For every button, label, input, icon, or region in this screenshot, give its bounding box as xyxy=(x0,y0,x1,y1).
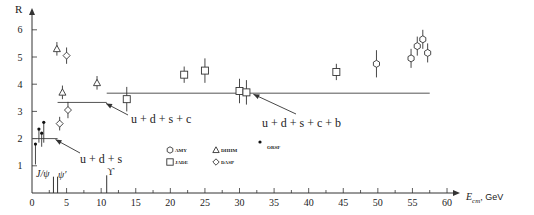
plot-area: 051015202530354045505560123456 R Ecm, Ge… xyxy=(0,0,534,215)
legend-label-dasp: DASP xyxy=(221,160,234,165)
dot-marker-icon xyxy=(258,140,261,143)
legend-label-amy: AMY xyxy=(175,148,187,153)
x-tick-label: 55 xyxy=(407,197,417,208)
resonance-label-psiprime: ψ′ xyxy=(58,169,67,180)
theory-lines xyxy=(32,93,430,138)
hexagon-marker-icon xyxy=(420,36,426,43)
square-marker-icon xyxy=(333,68,340,75)
dot-marker-icon xyxy=(40,132,43,135)
dot-marker-icon xyxy=(42,121,45,124)
x-axis-label: Ecm, GeV xyxy=(465,191,503,205)
y-tick-label: 2 xyxy=(18,133,23,144)
square-marker-icon xyxy=(201,67,208,74)
y-tick-label: 1 xyxy=(18,160,23,171)
x-tick-label: 0 xyxy=(30,197,35,208)
dot-marker-icon xyxy=(34,142,37,145)
x-tick-label: 30 xyxy=(235,197,245,208)
square-marker-icon xyxy=(236,88,243,95)
hexagon-marker-icon xyxy=(425,49,431,56)
x-tick-label: 35 xyxy=(269,197,279,208)
r-ratio-chart: 051015202530354045505560123456 R Ecm, Ge… xyxy=(0,0,534,215)
x-tick-label: 5 xyxy=(64,197,69,208)
diamond-marker-icon xyxy=(63,52,70,59)
y-axis-label: R xyxy=(15,3,23,15)
hexagon-marker-icon xyxy=(373,60,379,67)
data-points xyxy=(34,30,431,165)
x-tick-label: 20 xyxy=(165,197,175,208)
triangle-marker-icon xyxy=(59,89,66,95)
legend-label-dhhm: DHHM xyxy=(221,148,237,153)
annotation-uds: u + d + s xyxy=(80,152,123,166)
legend-label-orsf: ORSF xyxy=(267,145,280,150)
triangle-marker-icon xyxy=(53,45,60,51)
diamond-marker-icon xyxy=(213,159,219,165)
diamond-marker-icon xyxy=(56,120,63,127)
x-tick-label: 60 xyxy=(442,197,452,208)
square-marker-icon xyxy=(243,89,250,96)
square-marker-icon xyxy=(167,159,173,165)
triangle-marker-icon xyxy=(213,147,219,153)
y-tick-label: 6 xyxy=(18,24,23,35)
x-tick-label: 15 xyxy=(131,197,141,208)
square-marker-icon xyxy=(181,71,188,78)
triangle-marker-icon xyxy=(94,79,101,85)
x-tick-label: 50 xyxy=(373,197,383,208)
annotation-udscb: u + d + s + c + b xyxy=(262,116,341,130)
y-axis-arrow-icon xyxy=(29,8,35,15)
axes: 051015202530354045505560123456 xyxy=(18,8,461,208)
annotation-udsc: u + d + s + c xyxy=(131,112,191,126)
y-tick-label: 5 xyxy=(18,52,23,63)
x-axis-arrow-icon xyxy=(453,190,460,196)
x-tick-label: 25 xyxy=(200,197,210,208)
x-tick-label: 10 xyxy=(96,197,106,208)
resonance-label-upsilon: ϒ xyxy=(107,166,115,177)
hexagon-marker-icon xyxy=(167,147,173,153)
square-marker-icon xyxy=(123,96,130,103)
hexagon-marker-icon xyxy=(414,43,420,50)
diamond-marker-icon xyxy=(64,107,71,114)
annotation-arrow-line xyxy=(253,94,296,114)
y-tick-label: 3 xyxy=(18,106,23,117)
dot-marker-icon xyxy=(37,127,40,130)
x-tick-label: 40 xyxy=(304,197,314,208)
hexagon-marker-icon xyxy=(408,55,414,62)
legend-label-jade: JADE xyxy=(175,160,189,165)
x-tick-label: 45 xyxy=(338,197,348,208)
y-tick-label: 4 xyxy=(18,79,23,90)
resonance-label-jpsi: J/ψ xyxy=(36,168,50,179)
